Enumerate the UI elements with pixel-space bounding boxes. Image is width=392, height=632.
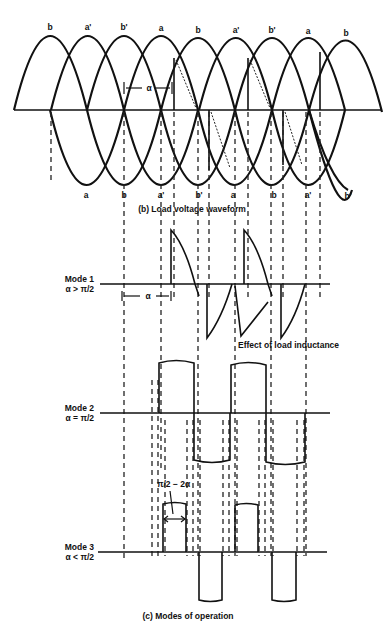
load-inductance-annotation: Effect of load inductance xyxy=(238,340,339,350)
mode-3-positive-pulse xyxy=(235,504,258,553)
mode-3-positive-pulse xyxy=(163,503,186,553)
mode-2-label: Mode 2 xyxy=(65,403,95,413)
mode-3-width-annotation: π/2 − 2α xyxy=(157,479,191,489)
cycloconverter-waveform-diagram: α b a' b' a b a' b' a b a b a' b' a b a'… xyxy=(0,0,392,632)
mode-3-negative-pulse xyxy=(199,552,222,602)
phase-label-top: b' xyxy=(268,25,275,35)
mode-3-label: Mode 3 xyxy=(65,542,95,552)
mode-1-pulse xyxy=(207,284,232,338)
load-inductance-effect xyxy=(235,286,268,336)
phase-label-top: b' xyxy=(120,22,127,32)
mode-2-positive-pulse xyxy=(159,361,194,414)
mode-3-condition: α < π/2 xyxy=(65,552,94,562)
mode-1-waveform: Mode 1 α > π/2 α Effect of load inductan… xyxy=(65,230,340,350)
alpha-label-top: α xyxy=(146,83,152,93)
mode-1-condition: α > π/2 xyxy=(65,284,94,294)
positive-arch-b-2 xyxy=(161,38,235,110)
mode-2-condition: α = π/2 xyxy=(65,413,94,423)
mode-2-positive-pulse xyxy=(231,363,266,414)
mode-1-pulse xyxy=(281,284,305,338)
positive-arch-a-prime-2 xyxy=(199,38,272,110)
mode-3-waveform: Mode 3 α < π/2 π/2 − 2α xyxy=(65,479,327,602)
projection-lines xyxy=(51,112,320,558)
phase-label-top: a xyxy=(306,26,311,36)
positive-arch-a-1 xyxy=(124,36,198,110)
caption-modes-of-operation: (c) Modes of operation xyxy=(142,611,233,621)
phase-label-bottom: b xyxy=(271,190,276,200)
negative-arch-a-1 xyxy=(50,110,124,185)
mode-3-negative-pulse xyxy=(272,552,296,602)
caption-load-voltage: (b) Load voltage waveform xyxy=(138,204,246,214)
mode-1-label: Mode 1 xyxy=(65,274,95,284)
positive-arch-b-prime-1 xyxy=(87,36,161,110)
mode-1-alpha-label: α xyxy=(145,291,151,301)
phase-label-top: a' xyxy=(233,25,240,35)
mode-2-negative-pulse xyxy=(266,413,305,465)
phase-label-top: b xyxy=(195,25,200,35)
phase-label-top: b xyxy=(343,28,348,38)
phase-label-bottom: b' xyxy=(344,191,351,201)
phase-label-top: a' xyxy=(85,22,92,32)
phase-label-top: b xyxy=(47,22,52,32)
negative-arch-b-2 xyxy=(235,110,309,185)
phase-label-bottom: a xyxy=(84,190,89,200)
positive-arch-b-prime-2 xyxy=(235,38,309,110)
phase-label-top: a xyxy=(159,23,164,33)
positive-arch-a-prime-1 xyxy=(51,36,124,110)
positive-arch-b-1 xyxy=(14,36,87,110)
phase-label-bottom: b' xyxy=(195,190,202,200)
